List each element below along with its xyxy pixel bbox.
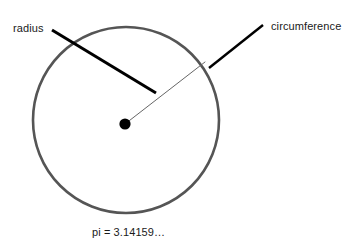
radius-line: [125, 62, 205, 124]
diagram-canvas: [0, 0, 358, 246]
center-point-dot: [119, 118, 130, 129]
circumference-leader-line: [209, 25, 263, 68]
pi-value-label: pi = 3.14159…: [92, 226, 165, 238]
circumference-label: circumference: [271, 20, 341, 32]
circle-diagram: radius circumference pi = 3.14159…: [0, 0, 358, 246]
radius-leader-line: [52, 30, 156, 93]
radius-label: radius: [13, 22, 44, 34]
